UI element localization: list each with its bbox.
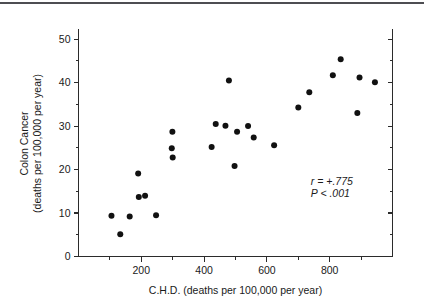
y-tick-label: 40 [59,76,71,88]
figure-container: 01020304050200400600800 r = +.775P < .00… [0,0,424,306]
y-axis-title-line2: (deaths per 100,000 per year) [31,74,43,213]
data-point [209,144,215,150]
data-point [330,72,336,78]
y-tick-label: 10 [59,207,71,219]
data-point [234,129,240,135]
statistics-annotation-group: r = +.775P < .001 [311,175,353,200]
data-point [135,170,141,176]
data-point [153,212,159,218]
data-point [127,214,133,220]
data-point [169,145,175,151]
data-point [169,129,175,135]
data-point [108,213,114,219]
data-point [232,163,238,169]
data-point [245,123,251,129]
statistics-annotation: P < .001 [311,187,350,199]
axis-titles-group: C.H.D. (deaths per 100,000 per year)Colo… [18,74,322,295]
data-point [354,110,360,116]
x-tick-label: 400 [195,264,213,276]
x-axis-title: C.H.D. (deaths per 100,000 per year) [149,284,322,296]
data-point [357,74,363,80]
data-point [372,79,378,85]
y-tick-label: 20 [59,163,71,175]
scatter-plot: 01020304050200400600800 r = +.775P < .00… [0,0,424,306]
data-points-group [108,56,377,237]
data-point [136,194,142,200]
data-point [117,231,123,237]
x-tick-label: 600 [258,264,276,276]
data-point [338,56,344,62]
tick-labels-group: 01020304050200400600800 [59,33,339,276]
y-tick-label: 30 [59,120,71,132]
data-point [306,89,312,95]
ticks-group [74,39,393,261]
data-point [251,134,257,140]
x-tick-label: 200 [133,264,151,276]
data-point [226,77,232,83]
x-tick-label: 800 [321,264,339,276]
statistics-annotation: r = +.775 [311,175,353,187]
data-point [271,142,277,148]
axes-group [79,29,393,257]
y-tick-label: 0 [65,250,71,262]
y-axis-title-line1: Colon Cancer [18,111,30,176]
data-point [222,123,228,129]
data-point [142,193,148,199]
data-point [295,104,301,110]
y-tick-label: 50 [59,33,71,45]
chart-svg: 01020304050200400600800 r = +.775P < .00… [0,0,424,306]
data-point [213,121,219,127]
data-point [170,154,176,160]
